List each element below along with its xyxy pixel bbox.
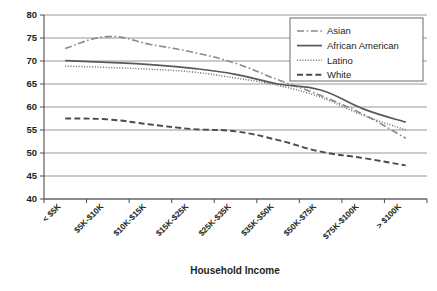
x-axis xyxy=(44,199,427,203)
legend-label-latino: Latino xyxy=(327,55,353,66)
x-tick-labels: < $5K$5K-$10K$10K-$15K$15K-$25K$25K-$35K… xyxy=(41,202,403,241)
legend-label-african-american: African American xyxy=(327,40,399,51)
x-tick-label: $50K-$75K xyxy=(282,202,318,238)
y-tick-marks xyxy=(40,15,44,199)
y-tick-label: 75 xyxy=(26,32,37,43)
x-tick-label: $75K-$100K xyxy=(321,202,360,241)
x-tick-marks xyxy=(44,199,427,203)
y-tick-labels: 807570656055504540 xyxy=(26,9,37,204)
chart-container: 807570656055504540 < $5K$5K-$10K$10K-$15… xyxy=(0,0,437,291)
y-tick-label: 60 xyxy=(26,101,37,112)
line-chart: 807570656055504540 < $5K$5K-$10K$10K-$15… xyxy=(0,0,437,291)
legend-label-white: White xyxy=(327,69,351,80)
x-tick-label: > $100K xyxy=(375,202,403,230)
y-tick-label: 50 xyxy=(26,147,37,158)
y-tick-label: 80 xyxy=(26,9,37,20)
y-tick-label: 70 xyxy=(26,55,37,66)
x-tick-label: $15K-$25K xyxy=(154,202,190,238)
legend: AsianAfrican AmericanLatinoWhite xyxy=(290,18,423,81)
y-tick-label: 40 xyxy=(26,193,37,204)
y-tick-label: 65 xyxy=(26,78,37,89)
y-tick-label: 55 xyxy=(26,124,37,135)
x-tick-label: $25K-$35K xyxy=(197,202,233,238)
x-tick-label: $10K-$15K xyxy=(112,202,148,238)
legend-label-asian: Asian xyxy=(327,25,351,36)
x-tick-label: $35K-$50K xyxy=(240,202,276,238)
y-axis xyxy=(40,15,44,199)
x-tick-label: $5K-$10K xyxy=(72,202,105,235)
series-line-white xyxy=(65,119,405,166)
x-axis-title: Household Income xyxy=(190,265,280,276)
x-tick-label: < $5K xyxy=(41,202,63,224)
y-tick-label: 45 xyxy=(26,170,37,181)
